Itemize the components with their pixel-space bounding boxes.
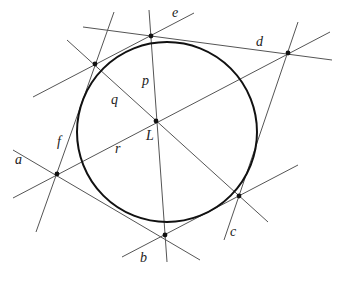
line-a	[13, 150, 200, 260]
label-r: r	[115, 141, 121, 156]
line-e	[33, 13, 194, 97]
point-upper-right	[286, 51, 291, 56]
brianchon-diagram: abcdefpqrL	[0, 0, 341, 285]
point-lower-right	[237, 194, 242, 199]
line-f	[36, 12, 114, 232]
label-p: p	[141, 73, 149, 88]
label-l: L	[145, 128, 154, 143]
label-b: b	[140, 250, 147, 265]
label-a: a	[15, 152, 22, 167]
label-d: d	[256, 34, 264, 49]
point-l	[154, 119, 159, 124]
point-bottom	[163, 233, 168, 238]
circle	[77, 42, 257, 222]
labels-layer: abcdefpqrL	[15, 5, 264, 265]
label-c: c	[230, 224, 237, 239]
label-e: e	[172, 5, 178, 20]
point-left	[55, 172, 60, 177]
point-upper-left	[93, 62, 98, 67]
label-f: f	[57, 134, 63, 149]
point-top	[149, 34, 154, 39]
label-q: q	[111, 92, 118, 107]
